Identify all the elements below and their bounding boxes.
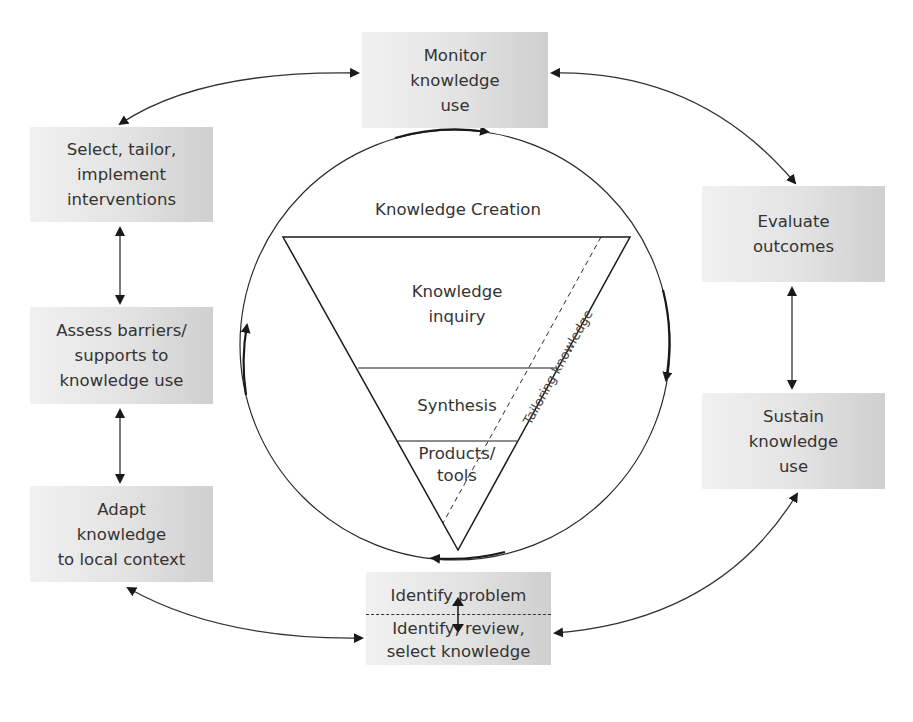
- box-evaluate-outcomes[interactable]: Evaluate outcomes: [702, 186, 885, 282]
- box-monitor-knowledge-use[interactable]: Monitor knowledge use: [362, 32, 548, 128]
- box-identify-problem[interactable]: Identify problem Identify, review, selec…: [366, 572, 551, 665]
- box-sustain-knowledge-use[interactable]: Sustain knowledge use: [702, 393, 885, 489]
- knowledge-creation-label: Knowledge Creation: [333, 197, 583, 222]
- box-adapt-knowledge[interactable]: Adapt knowledge to local context: [30, 486, 213, 582]
- knowledge-creation-circle: [240, 129, 670, 560]
- connector-sustain-identify: [555, 494, 797, 633]
- box-assess-barriers[interactable]: Assess barriers/ supports to knowledge u…: [30, 307, 213, 404]
- action-cycle-connectors: [120, 73, 797, 638]
- circle-arrow-bottom: [432, 552, 505, 559]
- circle-arrow-top: [395, 129, 488, 138]
- funnel-products-label: Products/ tools: [396, 443, 518, 487]
- funnel-synthesis-label: Synthesis: [396, 393, 518, 418]
- connector-monitor-evaluate: [552, 73, 795, 183]
- circle-arrow-left: [244, 325, 247, 395]
- connector-identify-adapt: [128, 588, 362, 638]
- box-select-tailor-implement[interactable]: Select, tailor, implement interventions: [30, 127, 213, 222]
- funnel-inquiry-label: Knowledge inquiry: [396, 279, 518, 329]
- circle-arrow-right: [663, 290, 669, 380]
- identify-double-arrow-icon: [451, 595, 465, 635]
- connector-select-monitor: [120, 73, 358, 124]
